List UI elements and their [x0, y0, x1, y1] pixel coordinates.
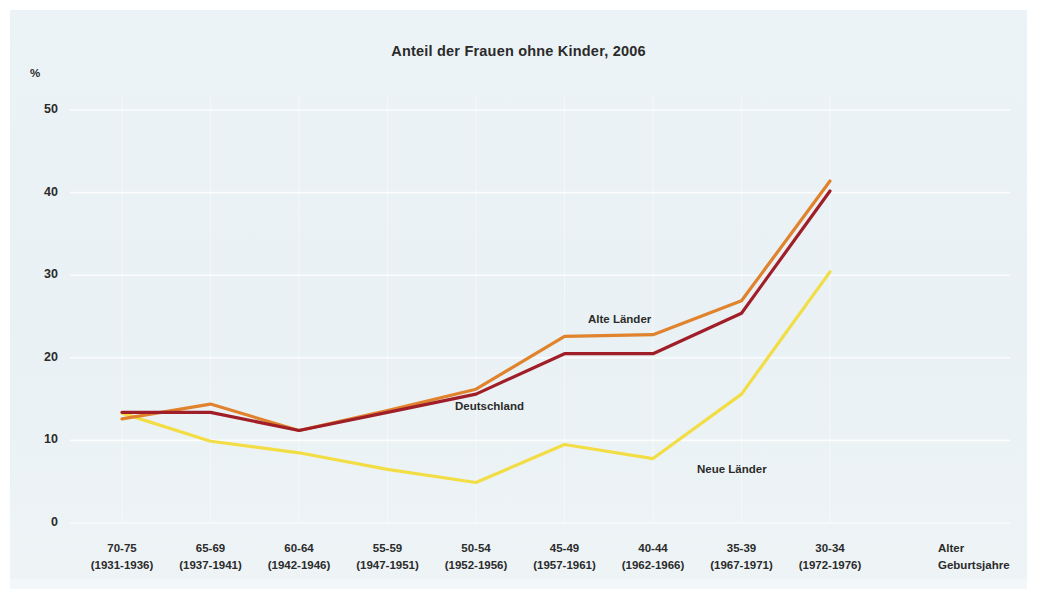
x-axis-caption-age: Alter — [938, 540, 1010, 557]
x-axis-caption-birthyears: Geburtsjahre — [938, 557, 1010, 574]
chart-gridlines — [70, 95, 1010, 523]
chart-plot-area — [0, 0, 1037, 599]
series-label-neue-laender: Neue Länder — [697, 463, 767, 475]
series-label-deutschland: Deutschland — [455, 400, 524, 412]
x-axis-caption: Alter Geburtsjahre — [938, 540, 1010, 574]
series-label-alte-laender: Alte Länder — [588, 313, 651, 325]
chart-page: Anteil der Frauen ohne Kinder, 2006 % 50… — [0, 0, 1037, 599]
